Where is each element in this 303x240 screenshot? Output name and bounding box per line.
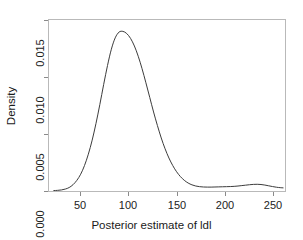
- x-tick-mark: [225, 192, 226, 196]
- y-axis-title-text: Density: [5, 87, 17, 125]
- y-tick-label: 0.005: [36, 153, 47, 181]
- x-tick-mark: [273, 192, 274, 196]
- x-tick-label: 100: [119, 200, 137, 211]
- x-tick-label: 150: [168, 200, 186, 211]
- x-tick-label: 250: [264, 200, 282, 211]
- x-tick-label: 50: [74, 200, 86, 211]
- x-tick-mark: [177, 192, 178, 196]
- x-axis-title: Posterior estimate of ldl: [0, 219, 303, 231]
- x-tick-mark: [80, 192, 81, 196]
- y-tick-label: 0.015: [36, 39, 47, 67]
- x-tick-label: 200: [216, 200, 234, 211]
- y-tick-label: 0.010: [36, 96, 47, 124]
- density-curve: [54, 31, 283, 190]
- density-plot-figure: Density 0.015 0.010 0.005 0.000 50 100 1…: [0, 0, 303, 240]
- density-curve-canvas: [49, 20, 285, 191]
- plot-area: [48, 19, 286, 192]
- y-axis-title: Density: [3, 0, 19, 212]
- x-tick-mark: [128, 192, 129, 196]
